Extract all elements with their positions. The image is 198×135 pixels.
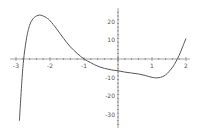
y-tick-label: 20	[107, 18, 115, 25]
x-tick-label: 2	[184, 62, 188, 69]
y-tick-label: -30	[105, 111, 115, 118]
y-tick-label: 10	[107, 36, 115, 43]
x-tick-label: -1	[81, 62, 87, 69]
x-tick-label: -2	[47, 62, 53, 69]
curve-line	[19, 15, 186, 121]
y-tick-label: -20	[105, 92, 115, 99]
x-tick-label: -3	[13, 62, 19, 69]
function-plot: -3-2-112 2010-10-20-30	[0, 0, 198, 135]
y-tick-label: -10	[105, 74, 115, 81]
y-axis: 2010-10-20-30	[105, 8, 119, 128]
x-tick-label: 1	[150, 62, 154, 69]
